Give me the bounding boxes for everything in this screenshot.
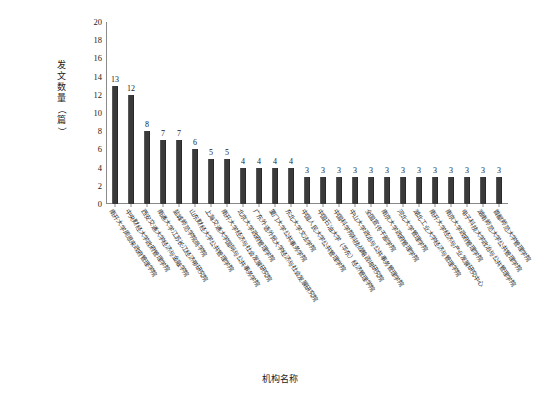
bar-slot: 5	[219, 22, 235, 204]
y-axis-tick-label: 8	[84, 126, 102, 136]
y-axis-tick-label: 4	[84, 163, 102, 173]
x-axis-tick-mark	[195, 204, 196, 207]
bar	[416, 177, 422, 204]
bar-slot: 4	[267, 22, 283, 204]
x-axis-tick-mark	[483, 204, 484, 207]
bar-slot: 3	[395, 22, 411, 204]
bar	[240, 168, 246, 204]
bar-slot: 8	[139, 22, 155, 204]
x-axis-tick-mark	[467, 204, 468, 207]
bar-slot: 3	[347, 22, 363, 204]
bar-slot: 3	[427, 22, 443, 204]
bar-slot: 3	[331, 22, 347, 204]
bar	[192, 149, 198, 204]
x-axis-tick-mark	[339, 204, 340, 207]
bar-value-label: 3	[321, 166, 325, 176]
bar	[384, 177, 390, 204]
bar-chart: 发文数量（篇） 02468101214161820 13128776554444…	[0, 0, 560, 408]
y-axis-title-char: ）	[56, 123, 67, 141]
x-axis-tick-mark	[419, 204, 420, 207]
bar	[496, 177, 502, 204]
bar	[256, 168, 262, 204]
bar-slot: 4	[283, 22, 299, 204]
bar-value-label: 4	[273, 157, 277, 167]
x-axis-tick-mark	[147, 204, 148, 207]
bar	[464, 177, 470, 204]
bar-slot: 3	[299, 22, 315, 204]
bar-slot: 13	[107, 22, 123, 204]
x-axis-tick-mark	[371, 204, 372, 207]
x-axis-tick-mark	[355, 204, 356, 207]
bar-value-label: 3	[385, 166, 389, 176]
bar	[176, 140, 182, 204]
bar-slot: 3	[379, 22, 395, 204]
bar-value-label: 3	[433, 166, 437, 176]
x-axis-tick-mark	[179, 204, 180, 207]
bar-slot: 3	[491, 22, 507, 204]
x-axis-tick-mark	[435, 204, 436, 207]
bar	[320, 177, 326, 204]
x-axis-tick-mark	[387, 204, 388, 207]
bar-slot: 5	[203, 22, 219, 204]
bar	[112, 86, 118, 204]
bar	[480, 177, 486, 204]
bar	[400, 177, 406, 204]
bar-slot: 3	[443, 22, 459, 204]
bar-value-label: 3	[481, 166, 485, 176]
y-axis-tick-label: 10	[84, 108, 102, 118]
x-axis-tick-mark	[259, 204, 260, 207]
y-axis-tick-labels: 02468101214161820	[84, 18, 102, 204]
bar-slot: 7	[171, 22, 187, 204]
bar	[208, 159, 214, 205]
bar-value-label: 4	[289, 157, 293, 167]
bar	[352, 177, 358, 204]
y-axis-title-char: 发	[52, 60, 70, 71]
bar	[448, 177, 454, 204]
x-axis-tick-mark	[227, 204, 228, 207]
bar-slot: 3	[475, 22, 491, 204]
plot-area: 131287765544443333333333333	[107, 22, 507, 204]
y-axis-tick-label: 18	[84, 35, 102, 45]
y-axis-tick-label: 14	[84, 72, 102, 82]
y-axis-tick-label: 12	[84, 90, 102, 100]
bar	[160, 140, 166, 204]
x-axis-tick-mark	[403, 204, 404, 207]
bar-series: 131287765544443333333333333	[107, 22, 507, 204]
x-axis-tick-mark	[307, 204, 308, 207]
x-axis-tick-mark	[499, 204, 500, 207]
bar	[224, 159, 230, 205]
bar-value-label: 6	[193, 138, 197, 148]
bar-value-label: 3	[353, 166, 357, 176]
y-axis-tick-label: 6	[84, 144, 102, 154]
bar-slot: 7	[155, 22, 171, 204]
bar-value-label: 3	[369, 166, 373, 176]
bar-slot: 12	[123, 22, 139, 204]
bar-slot: 3	[411, 22, 427, 204]
bar-value-label: 3	[465, 166, 469, 176]
x-axis-tick-mark	[243, 204, 244, 207]
bar-slot: 4	[251, 22, 267, 204]
bar	[432, 177, 438, 204]
bar-value-label: 3	[337, 166, 341, 176]
bar	[336, 177, 342, 204]
bar-slot: 3	[459, 22, 475, 204]
bar-value-label: 7	[177, 129, 181, 139]
bar	[144, 131, 150, 204]
y-axis-tick-label: 0	[84, 199, 102, 209]
bar-value-label: 3	[497, 166, 501, 176]
bar-slot: 4	[235, 22, 251, 204]
bar-value-label: 3	[449, 166, 453, 176]
bar	[272, 168, 278, 204]
bar-slot: 3	[363, 22, 379, 204]
bar-slot: 3	[315, 22, 331, 204]
bar-value-label: 5	[225, 148, 229, 158]
bar-value-label: 8	[145, 120, 149, 130]
x-axis-tick-mark	[451, 204, 452, 207]
bar-value-label: 4	[257, 157, 261, 167]
x-axis-tick-mark	[211, 204, 212, 207]
y-axis-tick-label: 20	[84, 17, 102, 27]
y-axis-tick-label: 16	[84, 53, 102, 63]
bar	[368, 177, 374, 204]
bar-value-label: 5	[209, 148, 213, 158]
x-axis-category-labels: 南开大学周恩来政府管理学院中央财经大学政府管理学院西安交通大学经济与金融学院南通…	[107, 208, 507, 358]
